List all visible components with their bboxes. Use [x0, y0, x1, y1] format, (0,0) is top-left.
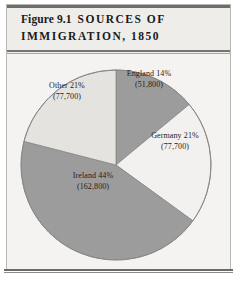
- figure-title: Figure 9.1 SOURCES OF IMMIGRATION, 1850: [21, 11, 221, 45]
- figure-footer-rule-thin: [4, 272, 233, 273]
- figure-title-caps-line-1: SOURCES OF: [78, 13, 166, 25]
- title-rule-top: [7, 5, 230, 8]
- pie-chart-area: England 14% (51,800) Germany 21% (77,700…: [7, 54, 230, 270]
- figure-title-band: Figure 9.1 SOURCES OF IMMIGRATION, 1850: [7, 5, 230, 53]
- figure-title-caps-line-2: IMMIGRATION, 1850: [21, 28, 221, 45]
- pie-label-england-name: England 14%: [111, 68, 187, 79]
- figure-number-label: Figure 9.1: [21, 13, 78, 25]
- pie-label-germany-value: (77,700): [135, 141, 215, 152]
- figure-frame: Figure 9.1 SOURCES OF IMMIGRATION, 1850: [6, 4, 231, 270]
- pie-label-ireland-name: Ireland 44%: [51, 170, 135, 181]
- pie-label-germany: Germany 21% (77,700): [135, 130, 215, 152]
- pie-label-germany-name: Germany 21%: [135, 130, 215, 141]
- pie-label-england: England 14% (51,800): [111, 68, 187, 90]
- pie-label-other: Other 21% (77,700): [29, 80, 105, 102]
- pie-label-england-value: (51,800): [111, 79, 187, 90]
- title-rule-bottom-outer: [7, 50, 230, 52]
- pie-label-ireland-value: (162,800): [51, 181, 135, 192]
- pie-label-ireland: Ireland 44% (162,800): [51, 170, 135, 192]
- figure-footer-rule-thick: [4, 269, 233, 271]
- figure-root: Figure 9.1 SOURCES OF IMMIGRATION, 1850: [0, 0, 238, 289]
- figure-title-line-1: Figure 9.1 SOURCES OF: [21, 11, 221, 28]
- pie-label-other-name: Other 21%: [29, 80, 105, 91]
- pie-label-other-value: (77,700): [29, 91, 105, 102]
